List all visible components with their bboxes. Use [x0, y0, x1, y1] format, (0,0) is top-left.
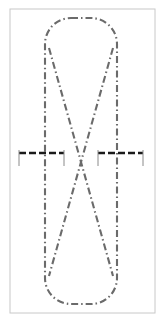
schematic-svg: [0, 0, 163, 331]
diagram-canvas: Dash-dot centerline schematic with cross…: [0, 0, 163, 331]
